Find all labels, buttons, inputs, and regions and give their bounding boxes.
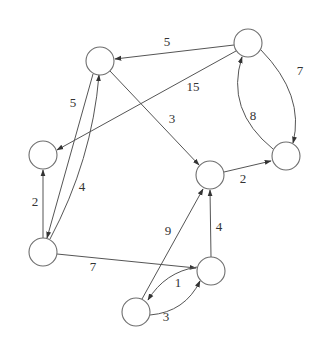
node-b bbox=[234, 29, 262, 57]
weight-f-to-g: 7 bbox=[90, 259, 97, 274]
weight-b-to-a: 5 bbox=[164, 34, 171, 49]
weight-f-to-a: 4 bbox=[79, 179, 86, 194]
graph-diagram: 5 15 7 8 3 5 4 2 2 7 4 9 1 3 bbox=[0, 0, 324, 344]
node-c bbox=[29, 141, 57, 169]
weight-h-to-g: 3 bbox=[163, 309, 170, 324]
edge-e-to-d bbox=[224, 161, 271, 172]
edge-b-to-d bbox=[261, 50, 296, 143]
node-h bbox=[122, 298, 150, 326]
node-f bbox=[29, 238, 57, 266]
weight-b-to-c: 15 bbox=[187, 79, 200, 94]
weight-a-to-e: 3 bbox=[169, 111, 176, 126]
edge-labels: 5 15 7 8 3 5 4 2 2 7 4 9 1 3 bbox=[32, 34, 304, 324]
edge-f-to-g bbox=[57, 254, 196, 268]
weight-g-to-h: 1 bbox=[175, 275, 182, 290]
weight-d-to-b: 8 bbox=[250, 108, 257, 123]
edge-g-to-e bbox=[210, 190, 211, 257]
graph-svg: 5 15 7 8 3 5 4 2 2 7 4 9 1 3 bbox=[0, 0, 324, 344]
edge-h-to-e bbox=[142, 189, 203, 299]
edge-b-to-c bbox=[57, 51, 236, 150]
node-a bbox=[86, 47, 114, 75]
node-g bbox=[197, 257, 225, 285]
edge-g-to-h bbox=[148, 267, 197, 300]
weight-g-to-e: 4 bbox=[216, 219, 223, 234]
edge-d-to-b bbox=[238, 57, 273, 149]
node-e bbox=[196, 161, 224, 189]
weight-e-to-d: 2 bbox=[240, 171, 247, 186]
weight-f-to-c: 2 bbox=[32, 194, 39, 209]
weight-h-to-e: 9 bbox=[165, 223, 172, 238]
node-d bbox=[272, 142, 300, 170]
weight-b-to-d: 7 bbox=[297, 63, 304, 78]
weight-a-to-f: 5 bbox=[70, 95, 77, 110]
edge-b-to-a bbox=[115, 45, 234, 59]
